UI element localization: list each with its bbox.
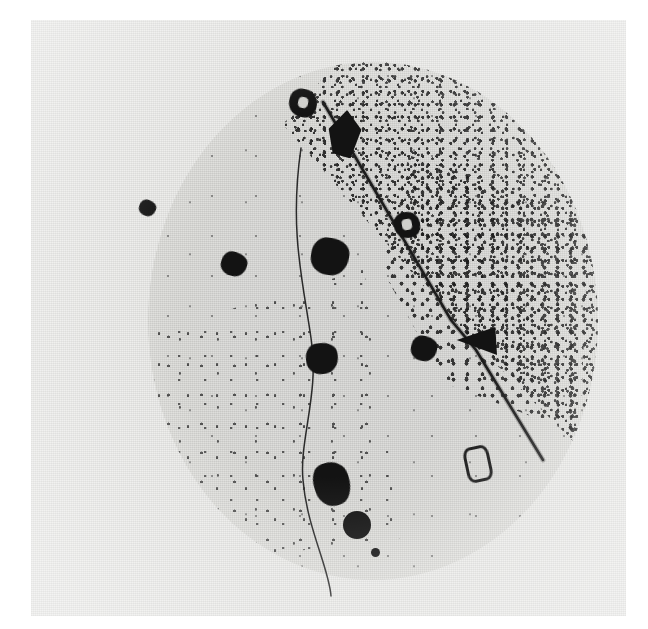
field-grain-texture <box>148 62 598 580</box>
photographic-print <box>31 20 626 616</box>
spot-round-low <box>343 511 371 539</box>
spot-tiny-low <box>371 548 380 557</box>
circular-specimen-field <box>148 62 598 580</box>
figure-canvas <box>0 0 648 629</box>
caption-strip <box>0 616 648 629</box>
